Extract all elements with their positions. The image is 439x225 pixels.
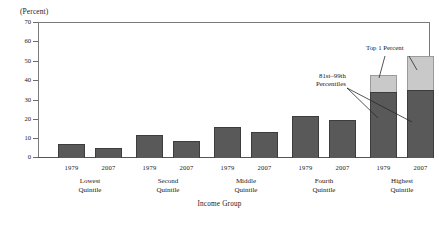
group-label-middle-quintile: MiddleQuintile — [201, 177, 291, 195]
bar-segment-main — [95, 148, 122, 158]
bar-segment-main — [370, 92, 397, 158]
period-label-fourth-quintile-2007: 2007 — [326, 164, 360, 171]
period-label-lowest-quintile-1979: 1979 — [55, 164, 89, 171]
y-axis-unit-caption: (Percent) — [20, 7, 48, 16]
bar-segment-main — [407, 90, 434, 158]
group-label-line-1: Second — [123, 177, 213, 186]
group-label-lowest-quintile: LowestQuintile — [45, 177, 135, 195]
x-axis-title: Income Group — [0, 200, 439, 208]
annotation-line-1: 81st–99th — [316, 72, 346, 80]
bar-segment-main — [58, 144, 85, 158]
bar-highest-quintile-2007 — [407, 56, 434, 158]
group-label-line-1: Lowest — [45, 177, 135, 186]
period-label-middle-quintile-2007: 2007 — [248, 164, 282, 171]
y-label-30: 30 — [7, 97, 31, 104]
group-label-line-2: Quintile — [201, 186, 291, 195]
bar-highest-quintile-1979 — [370, 75, 397, 158]
bar-lowest-quintile-1979 — [58, 144, 85, 158]
bar-middle-quintile-2007 — [251, 132, 278, 158]
bar-segment-main — [214, 127, 241, 158]
bar-segment-main — [292, 116, 319, 158]
y-label-10: 10 — [7, 135, 31, 142]
group-label-line-2: Quintile — [357, 186, 439, 195]
annotation-line-2: Percentiles — [316, 80, 346, 88]
chart-container: (Percent) 70 60 50 40 30 20 10 0 1979200… — [0, 0, 439, 225]
group-label-line-2: Quintile — [279, 186, 369, 195]
y-label-50: 50 — [7, 58, 31, 65]
group-label-line-1: Highest — [357, 177, 439, 186]
y-label-20: 20 — [7, 116, 31, 123]
period-label-highest-quintile-2007: 2007 — [404, 164, 438, 171]
group-label-line-1: Fourth — [279, 177, 369, 186]
bar-fourth-quintile-1979 — [292, 116, 319, 158]
annotation-81st-99th-percentiles: 81st–99th Percentiles — [316, 72, 346, 88]
group-label-line-2: Quintile — [45, 186, 135, 195]
bar-segment-main — [136, 135, 163, 158]
y-label-70: 70 — [7, 19, 31, 26]
period-label-highest-quintile-1979: 1979 — [367, 164, 401, 171]
bar-second-quintile-2007 — [173, 141, 200, 158]
group-label-highest-quintile: HighestQuintile — [357, 177, 439, 195]
group-label-fourth-quintile: FourthQuintile — [279, 177, 369, 195]
bar-segment-main — [251, 132, 278, 158]
group-label-line-2: Quintile — [123, 186, 213, 195]
group-label-second-quintile: SecondQuintile — [123, 177, 213, 195]
period-label-middle-quintile-1979: 1979 — [211, 164, 245, 171]
y-label-60: 60 — [7, 38, 31, 45]
period-label-second-quintile-1979: 1979 — [133, 164, 167, 171]
bar-segment-main — [329, 120, 356, 158]
bars-layer — [38, 22, 430, 158]
group-label-line-1: Middle — [201, 177, 291, 186]
period-label-second-quintile-2007: 2007 — [170, 164, 204, 171]
period-label-fourth-quintile-1979: 1979 — [289, 164, 323, 171]
bar-segment-top-1-percent — [407, 56, 434, 90]
bar-second-quintile-1979 — [136, 135, 163, 158]
period-label-lowest-quintile-2007: 2007 — [92, 164, 126, 171]
bar-segment-main — [173, 141, 200, 158]
y-label-40: 40 — [7, 77, 31, 84]
annotation-top-1-percent: Top 1 Percent — [366, 44, 404, 52]
bar-fourth-quintile-2007 — [329, 120, 356, 158]
bar-lowest-quintile-2007 — [95, 148, 122, 158]
bar-segment-top-1-percent — [370, 75, 397, 92]
bar-middle-quintile-1979 — [214, 127, 241, 158]
y-label-0: 0 — [7, 154, 31, 161]
